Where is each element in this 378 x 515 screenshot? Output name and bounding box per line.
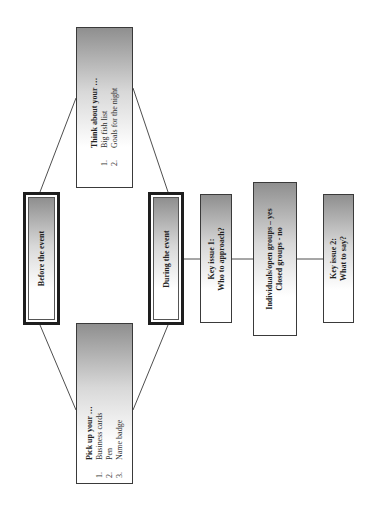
node-groups: Individuals/open groups – yes Closed gro… [253, 182, 297, 336]
node-label-line2: Who to approach? [216, 227, 226, 290]
node-label: During the event [161, 230, 171, 287]
list-number: 1. [95, 460, 105, 478]
edge-before-pickup [40, 325, 76, 410]
edge-pickup-during [133, 325, 168, 410]
node-think-about: Think about your … 1. Big fish list 2. G… [76, 27, 133, 188]
list-item: 2. Goals for the night [110, 78, 120, 166]
edge-before-think [40, 98, 76, 192]
checklist: Think about your … 1. Big fish list 2. G… [90, 78, 120, 166]
checklist: Pick up your … 1. Business cards 2. Pen … [85, 406, 125, 478]
node-label-line2: Closed groups - no [275, 227, 285, 291]
list-item: 1. Business cards [95, 406, 105, 478]
list-item: 2. Pen [105, 406, 115, 478]
list-text: Pen [105, 448, 115, 460]
node-label-line2: What to say? [339, 236, 349, 281]
node-label-line1: Individuals/open groups – yes [265, 208, 275, 309]
list-heading: Pick up your … [85, 406, 95, 478]
list-text: Big fish list [100, 111, 110, 148]
list-item: 1. Big fish list [100, 78, 110, 166]
node-label-line1: Key issue 2: [329, 238, 339, 279]
list-text: Name badge [115, 420, 125, 460]
node-label-line1: Key issue 1: [206, 238, 216, 279]
list-heading: Think about your … [90, 78, 100, 166]
list-number: 1. [100, 148, 110, 166]
node-key-issue-1: Key issue 1: Who to approach? [200, 194, 232, 323]
list-number: 2. [105, 460, 115, 478]
node-pick-up: Pick up your … 1. Business cards 2. Pen … [76, 323, 133, 484]
list-text: Goals for the night [110, 88, 120, 148]
node-before-the-event: Before the event [23, 192, 60, 325]
list-item: 3. Name badge [115, 406, 125, 478]
list-number: 2. [110, 148, 120, 166]
node-key-issue-2: Key issue 2: What to say? [323, 194, 354, 323]
node-label: Before the event [37, 231, 47, 286]
list-number: 3. [115, 460, 125, 478]
list-text: Business cards [95, 413, 105, 460]
diagram-canvas: Before the event Think about your … 1. B… [0, 0, 378, 515]
node-during-the-event: During the event [148, 192, 184, 325]
edge-think-during [133, 88, 168, 192]
